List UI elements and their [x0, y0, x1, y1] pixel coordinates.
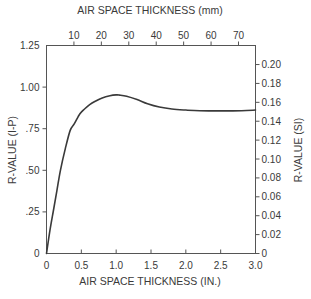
y-right-tick-label: 0.10 — [262, 154, 282, 165]
x-tick-label: 0.5 — [74, 260, 88, 271]
y-right-tick-label: 0.20 — [262, 59, 282, 70]
x-top-tick-label: 20 — [96, 30, 108, 41]
y-right-tick-label: 0.04 — [262, 210, 282, 221]
y-tick-label: 1.00 — [20, 82, 40, 93]
y-right-tick-label: 0.02 — [262, 229, 282, 240]
y-right-tick-label: 0.14 — [262, 116, 282, 127]
y-axis-left-title: R-VALUE (I-P) — [6, 116, 18, 184]
x-tick-label: 2.0 — [179, 260, 193, 271]
y-tick-label: 0 — [34, 248, 40, 259]
x-top-tick-label: 60 — [206, 30, 218, 41]
y-right-tick-label: 0.16 — [262, 97, 282, 108]
x-top-tick-label: 10 — [68, 30, 80, 41]
y-tick-label: .75 — [26, 123, 40, 134]
x-top-tick-label: 40 — [151, 30, 163, 41]
x-tick-label: 1.5 — [144, 260, 158, 271]
y-tick-label: .50 — [26, 165, 40, 176]
x-top-tick-label: 70 — [233, 30, 245, 41]
y-right-tick-label: 0.12 — [262, 135, 282, 146]
x-axis-top-title: AIR SPACE THICKNESS (mm) — [77, 4, 222, 16]
x-top-tick-label: 30 — [123, 30, 135, 41]
y-right-tick-label: 0.06 — [262, 191, 282, 202]
y-right-tick-label: 0.08 — [262, 172, 282, 183]
x-tick-label: 3.0 — [249, 260, 263, 271]
x-tick-label: 0 — [44, 260, 50, 271]
chart: AIR SPACE THICKNESS (mm) AIR SPACE THICK… — [0, 0, 311, 299]
x-axis-bottom-title: AIR SPACE THICKNESS (IN.) — [79, 275, 220, 287]
y-tick-label: 1.25 — [20, 40, 40, 51]
r-value-curve — [47, 95, 256, 254]
y-axis-right-title: R-VALUE (SI) — [292, 118, 304, 183]
y-right-tick-label: 0.18 — [262, 78, 282, 89]
x-tick-label: 1.0 — [109, 260, 123, 271]
x-top-tick-label: 50 — [178, 30, 190, 41]
x-tick-label: 2.5 — [214, 260, 228, 271]
axis-tick-labels: 00.51.01.52.02.53.0102030405060700.25.50… — [20, 30, 281, 271]
chart-svg: AIR SPACE THICKNESS (mm) AIR SPACE THICK… — [0, 0, 311, 299]
plot-frame — [47, 46, 256, 254]
y-tick-label: .25 — [26, 206, 40, 217]
y-right-tick-label: 0 — [262, 248, 268, 259]
axis-ticks — [43, 42, 260, 254]
